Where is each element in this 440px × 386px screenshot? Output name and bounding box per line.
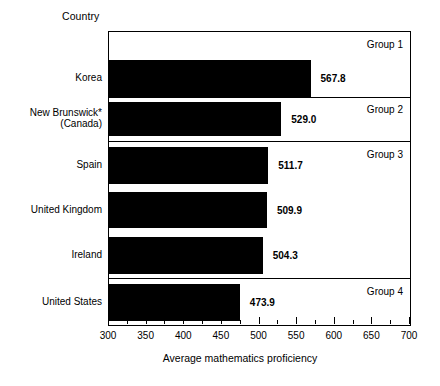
group-separator (109, 97, 410, 98)
plot-area: Group 1Group 2Group 3Group 4567.8529.051… (108, 31, 411, 326)
bar-spain (109, 147, 268, 184)
category-label-line: Korea (75, 72, 102, 83)
x-tick-minor (202, 320, 203, 324)
group-label-group-3: Group 3 (367, 149, 403, 160)
x-tick-label: 600 (314, 330, 354, 341)
category-label-line: United States (42, 296, 102, 307)
x-tick-major (371, 317, 372, 324)
bar-korea (109, 60, 311, 97)
x-tick-label: 650 (351, 330, 391, 341)
bar-new-brunswick-canada (109, 102, 281, 136)
category-label-line: Ireland (71, 249, 102, 260)
x-tick-major (183, 317, 184, 324)
category-label-line: United Kingdom (31, 204, 102, 215)
x-tick-label: 450 (201, 330, 241, 341)
category-axis-title: Country (62, 10, 99, 22)
x-tick-label: 400 (163, 330, 203, 341)
group-label-group-2: Group 2 (367, 104, 403, 115)
chart-figure: Country Group 1Group 2Group 3Group 4567.… (0, 0, 440, 386)
x-tick-label: 550 (276, 330, 316, 341)
bar-value-spain: 511.7 (278, 160, 302, 171)
bar-value-united-states: 473.9 (250, 297, 275, 308)
category-label-united-states: United States (42, 296, 102, 307)
category-label-korea: Korea (75, 72, 102, 83)
category-label-spain: Spain (76, 159, 102, 170)
group-label-group-1: Group 1 (367, 39, 403, 50)
x-tick-major (146, 317, 147, 324)
x-tick-minor (164, 320, 165, 324)
bar-united-states (109, 284, 240, 321)
bar-value-united-kingdom: 509.9 (277, 205, 302, 216)
category-label-new-brunswick-canada: New Brunswick*(Canada) (30, 107, 102, 129)
x-tick-major (108, 317, 109, 324)
bar-value-new-brunswick-canada: 529.0 (291, 114, 316, 125)
x-tick-major (221, 317, 222, 324)
category-label-line: New Brunswick* (30, 107, 102, 118)
bar-value-korea: 567.8 (321, 73, 346, 84)
x-tick-major (409, 317, 410, 324)
category-label-line: Spain (76, 159, 102, 170)
x-tick-label: 700 (389, 330, 429, 341)
category-label-ireland: Ireland (71, 249, 102, 260)
group-separator (109, 278, 410, 279)
x-tick-minor (240, 320, 241, 324)
x-tick-label: 300 (88, 330, 128, 341)
group-label-group-4: Group 4 (367, 286, 403, 297)
x-tick-major (296, 317, 297, 324)
plot-inner: Group 1Group 2Group 3Group 4567.8529.051… (109, 32, 410, 325)
x-tick-minor (390, 320, 391, 324)
x-tick-label: 350 (126, 330, 166, 341)
group-separator (109, 141, 410, 142)
category-label-line: (Canada) (30, 118, 102, 129)
x-tick-minor (315, 320, 316, 324)
bar-value-ireland: 504.3 (273, 250, 298, 261)
x-tick-major (334, 317, 335, 324)
bar-ireland (109, 237, 263, 274)
x-tick-minor (277, 320, 278, 324)
x-tick-minor (353, 320, 354, 324)
x-tick-label: 500 (239, 330, 279, 341)
bar-united-kingdom (109, 192, 267, 228)
category-label-united-kingdom: United Kingdom (31, 204, 102, 215)
x-tick-minor (127, 320, 128, 324)
x-axis-title: Average mathematics proficiency (0, 352, 440, 364)
x-axis-title-text: Average mathematics proficiency (163, 352, 317, 364)
x-tick-major (259, 317, 260, 324)
